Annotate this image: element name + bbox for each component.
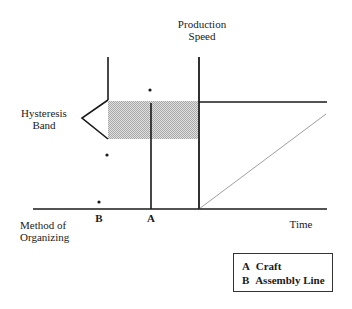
legend-key-b: B <box>242 273 253 287</box>
method-label-line1: Method of <box>20 219 72 231</box>
production-label-line2: Speed <box>170 30 234 42</box>
legend-item-craft: A Craft <box>242 259 332 273</box>
band-label-line2: Band <box>12 119 76 131</box>
speed-ramp-line <box>199 114 326 209</box>
time-label: Time <box>284 218 318 230</box>
legend-key-a: A <box>242 259 253 273</box>
method-label-line2: Organizing <box>20 231 72 243</box>
dot-upper <box>148 88 151 91</box>
hysteresis-chevron <box>82 100 108 139</box>
production-label-line1: Production <box>170 18 234 30</box>
band-label-line1: Hysteresis <box>12 107 76 119</box>
hysteresis-band-label: Hysteresis Band <box>12 107 76 131</box>
production-speed-label: Production Speed <box>170 18 234 42</box>
hysteresis-band <box>108 101 198 139</box>
marker-a-label: A <box>145 212 157 224</box>
dot-b <box>97 200 100 203</box>
legend-box: A Craft B Assembly Line <box>233 253 333 292</box>
legend-label-craft: Craft <box>256 260 282 272</box>
dot-middle <box>105 153 108 156</box>
legend-item-assembly-line: B Assembly Line <box>242 273 332 287</box>
marker-b-label: B <box>93 212 105 224</box>
method-of-organizing-label: Method of Organizing <box>20 219 72 243</box>
legend-label-assembly-line: Assembly Line <box>255 274 324 286</box>
